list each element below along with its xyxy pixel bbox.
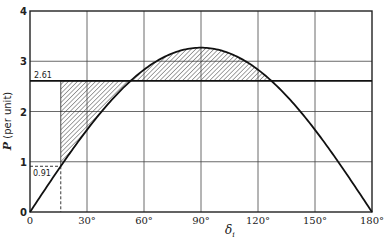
y-tick-labels: 01234: [20, 6, 27, 218]
shaded-regions: [61, 48, 272, 166]
y-tick-label: 0: [20, 207, 27, 218]
x-axis-label: δi: [225, 223, 235, 239]
x-tick-label: 30°: [78, 215, 96, 226]
y-tick-label: 4: [20, 6, 27, 17]
y-axis-label: P (per unit): [1, 92, 14, 152]
x-tick-labels: 030°60°90°120°150°180°: [27, 215, 384, 226]
y-tick-label: 2: [20, 107, 27, 118]
y-tick-label: 3: [20, 56, 27, 67]
label-2-61: 2.61: [34, 71, 52, 80]
x-tick-label: 60°: [135, 215, 153, 226]
power-angle-chart: 030°60°90°120°150°180° 01234 2.610.91 P …: [0, 0, 385, 241]
accelerating-area: [61, 81, 131, 166]
x-axis-subscript: i: [232, 230, 235, 239]
label-0-91: 0.91: [33, 169, 51, 178]
x-axis-symbol: δ: [225, 223, 232, 237]
x-tick-label: 0: [27, 215, 33, 226]
x-tick-label: 150°: [303, 215, 327, 226]
annotations: 2.610.91: [33, 71, 52, 178]
x-tick-label: 90°: [192, 215, 210, 226]
y-tick-label: 1: [20, 157, 27, 168]
x-tick-label: 180°: [360, 215, 384, 226]
x-tick-label: 120°: [246, 215, 270, 226]
y-axis-unit: (per unit): [2, 92, 13, 142]
